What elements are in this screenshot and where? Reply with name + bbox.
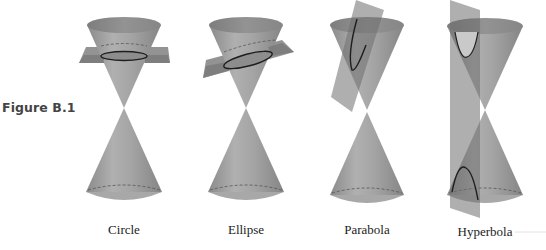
- caption-parabola: Parabola: [344, 222, 389, 238]
- lower-nappe: [86, 108, 162, 192]
- upper-rim: [209, 17, 283, 33]
- upper-nappe: [87, 25, 161, 108]
- caption-ellipse: Ellipse: [228, 222, 264, 238]
- caption-hyperbola: Hyperbola: [458, 224, 513, 240]
- conic-sections-diagram: [0, 0, 546, 250]
- circle-curve: [101, 52, 147, 61]
- parabola-panel: [330, 0, 404, 203]
- lower-nappe: [208, 108, 284, 192]
- circle-panel: [79, 17, 170, 200]
- ellipse-panel: [203, 17, 294, 200]
- upper-rim: [87, 17, 161, 33]
- caption-circle: Circle: [108, 222, 140, 238]
- hyperbola-panel: [447, 0, 523, 218]
- lower-nappe: [330, 112, 404, 195]
